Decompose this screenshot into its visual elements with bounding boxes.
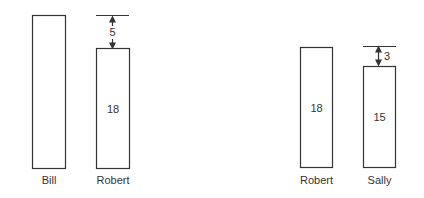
robert-label-right: Robert (300, 174, 333, 186)
difference-label-3: 3 (384, 50, 390, 62)
right-group: 18 Robert 3 15 Sally (300, 47, 396, 187)
robert-value-right: 18 (310, 102, 322, 114)
robert-label-left: Robert (96, 174, 129, 186)
sally-value: 15 (373, 111, 385, 123)
robert-value-left: 18 (107, 103, 119, 115)
difference-label-5: 5 (109, 26, 115, 38)
bill-bar (33, 16, 66, 169)
bar-model-diagram: Bill 5 18 Robert 18 Robert 3 15 Sally (0, 0, 424, 198)
sally-label: Sally (368, 174, 392, 186)
left-group: Bill 5 18 Robert (33, 16, 130, 187)
bill-label: Bill (42, 174, 57, 186)
